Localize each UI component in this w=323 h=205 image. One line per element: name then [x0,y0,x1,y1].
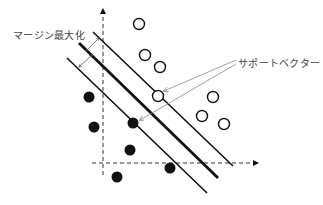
open-circle-point [140,50,151,61]
filled-circle-point [84,92,95,103]
filled-circle-point [125,145,136,156]
open-circle-point [134,19,145,30]
margin-maximization-label: マージン最大化 [13,27,85,42]
open-circle-point [197,111,208,122]
margin-arrow-lower [79,55,92,67]
filled-circle-point [112,172,123,183]
support-vector-label: サポートベクター [238,55,320,70]
filled-class-points [84,92,176,183]
pointer-open-support-vector [164,60,236,91]
filled-circle-point [89,122,100,133]
margin-arrow-upper [86,38,99,51]
filled-circle-point [165,163,176,174]
open-circle-point [208,92,219,103]
open-circle-point [219,119,230,130]
filled-circle-point [128,118,139,129]
axes [92,9,258,175]
open-class-points [134,19,230,130]
open-circle-point [153,91,164,102]
open-circle-point [155,62,166,73]
decision-boundary-line [79,43,218,178]
